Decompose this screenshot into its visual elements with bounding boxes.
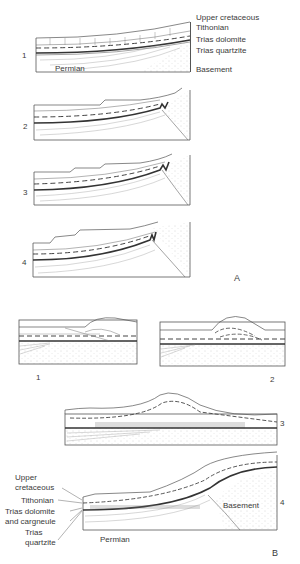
legend-trias-quartzite: Trias quartzite [196, 46, 247, 55]
panel-a2: 2 [23, 88, 190, 140]
legend-b: Upper cretaceous Tithonian Trias dolomit… [5, 473, 82, 547]
legend-b-trias: Trias [25, 528, 42, 537]
legend-b-quartzite: quartzite [25, 538, 56, 547]
panel-a1: 1 Permian [22, 22, 191, 73]
legend-trias-dolomite: Trias dolomite [196, 35, 246, 44]
panel-b2: 2 [160, 317, 285, 385]
panel-b3: 3 [65, 393, 285, 445]
legend-upper-cretaceous: Upper cretaceous [196, 13, 259, 22]
legend-b-tithonian: Tithonian [21, 496, 54, 505]
stage-label-b4: 4 [280, 498, 285, 507]
panel-a3: 3 [23, 154, 190, 205]
legend-b-trias-dolomite: Trias dolomite [5, 507, 55, 516]
stage-label-b2: 2 [270, 375, 275, 384]
part-b-label: B [272, 548, 278, 558]
stage-label-b3: 3 [280, 419, 285, 428]
permian-label-b: Permian [100, 535, 130, 544]
legend-a: Upper cretaceous Tithonian Trias dolomit… [196, 13, 259, 74]
panel-b4: Basement 4 Permian [83, 452, 285, 544]
stage-label-a3: 3 [23, 188, 28, 197]
legend-b-upper: Upper [15, 473, 37, 482]
panel-a4: 4 [22, 222, 190, 277]
stage-label-a4: 4 [22, 258, 27, 267]
permian-label-a: Permian [55, 64, 85, 73]
legend-b-cargneule: and cargneule [5, 517, 56, 526]
legend-tithonian: Tithonian [196, 23, 229, 32]
part-a-label: A [234, 273, 240, 283]
geological-cross-section-figure: 1 Permian Upper cretaceous Tithonian Tri… [0, 0, 300, 564]
legend-basement: Basement [196, 65, 233, 74]
stage-label-b1: 1 [36, 373, 41, 382]
stage-label-a2: 2 [23, 122, 28, 131]
legend-b-cretaceous: cretaceous [15, 483, 54, 492]
basement-label-b: Basement [223, 501, 260, 510]
stage-label-a1: 1 [22, 51, 27, 60]
panel-b1: 1 [19, 318, 137, 382]
